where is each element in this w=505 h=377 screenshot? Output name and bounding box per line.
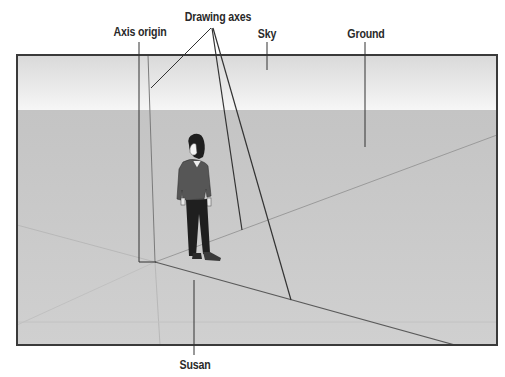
label-susan: Susan <box>177 358 213 372</box>
viewport <box>17 55 497 345</box>
label-axis-origin: Axis origin <box>109 25 170 39</box>
label-sky: Sky <box>254 27 280 41</box>
figure: Drawing axes Axis origin Sky Ground Susa… <box>0 0 505 377</box>
ground <box>17 110 497 345</box>
sky <box>17 55 497 110</box>
scene-svg <box>0 0 505 377</box>
label-ground: Ground <box>344 27 388 41</box>
label-drawing-axes: Drawing axes <box>184 10 252 24</box>
